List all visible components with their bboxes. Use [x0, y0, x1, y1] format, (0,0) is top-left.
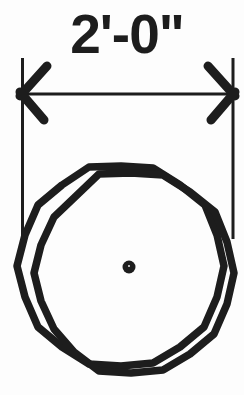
drawing-canvas [0, 0, 244, 395]
center-dot-highlight [128, 265, 130, 267]
sketch-circle-loop-inner [34, 173, 234, 373]
technical-drawing: 2'-0" [0, 0, 244, 395]
